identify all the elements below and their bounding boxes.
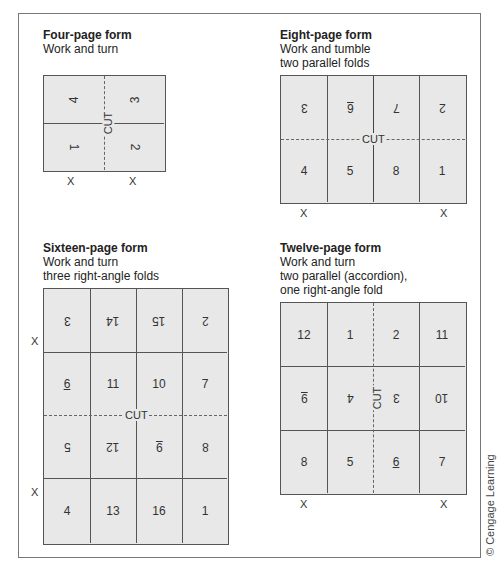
fold-line	[327, 303, 328, 493]
page-cell: 5	[327, 139, 373, 202]
cut-label: CUT	[361, 133, 386, 145]
page-cell: 10	[419, 366, 465, 430]
page-cell: 7	[182, 352, 228, 415]
page-cell: 11	[90, 352, 136, 415]
page-cell: 12	[90, 415, 136, 478]
page-number: 1	[68, 143, 82, 150]
fold-line	[90, 289, 91, 543]
page-cell: 2	[182, 289, 228, 352]
page-cell: 14	[90, 289, 136, 352]
page-number: 5	[64, 440, 71, 454]
page-number: 4	[301, 164, 308, 178]
page-cell: 5	[327, 430, 373, 493]
four-page-form-diagram: 4 3 1 2 CUT	[43, 75, 166, 172]
page-number: 9	[156, 440, 163, 454]
page-cell: 6	[373, 430, 419, 493]
sixteen-page-form-title: Sixteen-page form	[43, 241, 159, 255]
page-number: 2	[129, 143, 143, 150]
page-cell: 1	[419, 139, 465, 202]
page-number: 14	[106, 314, 119, 328]
page-number: 3	[393, 391, 400, 405]
gripper-mark: X	[440, 207, 447, 219]
page-number: 7	[393, 101, 400, 115]
sixteen-page-form-caption: Sixteen-page form Work and turn three ri…	[43, 241, 159, 283]
twelve-page-form-diagram: 12 1 2 11 9 4 3 10 8 5 6 7 CUT	[280, 302, 467, 495]
page-number: 5	[347, 455, 354, 469]
page-cell: 4	[44, 478, 90, 543]
page-cell: 7	[419, 430, 465, 493]
page-cell: 1	[182, 478, 228, 543]
page-number: 2	[393, 328, 400, 342]
gripper-mark: X	[31, 486, 38, 498]
twelve-page-form-subtitle: Work and turn	[280, 255, 407, 269]
sixteen-page-form-subtitle: three right-angle folds	[43, 269, 159, 283]
gripper-mark: X	[440, 498, 447, 510]
twelve-page-form-subtitle: two parallel (accordion),	[280, 269, 407, 283]
twelve-page-form-title: Twelve-page form	[280, 241, 407, 255]
page-cell: 9	[136, 415, 182, 478]
page-number: 4	[68, 96, 82, 103]
page-number: 4	[347, 391, 354, 405]
gripper-mark: X	[31, 335, 38, 347]
gripper-mark: X	[300, 498, 307, 510]
page-cell: 2	[373, 303, 419, 366]
sixteen-page-form-subtitle: Work and turn	[43, 255, 159, 269]
eight-page-form-caption: Eight-page form Work and tumble two para…	[280, 28, 372, 70]
page-number: 4	[64, 504, 71, 518]
page-cell: 11	[419, 303, 465, 366]
copyright-notice: © Cengage Learning	[484, 454, 496, 556]
page-number: 16	[152, 504, 165, 518]
page-number: 10	[152, 377, 165, 391]
page-cell: 8	[281, 430, 327, 493]
fold-line	[44, 352, 227, 353]
page-cell: 3	[281, 76, 327, 139]
page-cell: 13	[90, 478, 136, 543]
page-cell: 3	[44, 289, 90, 352]
page-number: 7	[202, 377, 209, 391]
gripper-mark: X	[67, 175, 74, 187]
page-number: 1	[439, 164, 446, 178]
page-number: 7	[439, 455, 446, 469]
page-number: 1	[347, 328, 354, 342]
cut-label: CUT	[124, 409, 149, 421]
page-cell: 8	[373, 139, 419, 202]
page-cell: 7	[373, 76, 419, 139]
page-number: 6	[64, 377, 71, 391]
page-number: 3	[129, 96, 143, 103]
page-number: 13	[106, 504, 119, 518]
eight-page-form-subtitle: Work and tumble	[280, 42, 372, 56]
page-number: 15	[152, 314, 165, 328]
sixteen-page-form-diagram: 3 14 15 2 6 11 10 7 5 12 9 8 4 13 16 1 C…	[43, 288, 229, 545]
page-cell: 5	[44, 415, 90, 478]
page-number: 10	[435, 391, 448, 405]
four-page-form-caption: Four-page form Work and turn	[43, 28, 132, 56]
page-number: 5	[347, 164, 354, 178]
fold-line	[44, 478, 227, 479]
page-number: 3	[301, 101, 308, 115]
fold-line	[182, 289, 183, 543]
cut-label: CUT	[102, 111, 114, 136]
eight-page-form-subtitle: two parallel folds	[280, 56, 372, 70]
page-cell: 15	[136, 289, 182, 352]
page-number: 1	[202, 504, 209, 518]
page-cell: 9	[281, 366, 327, 430]
four-page-form-title: Four-page form	[43, 28, 132, 42]
page-cell: 8	[182, 415, 228, 478]
page-number: 11	[436, 328, 448, 342]
page-cell: 10	[136, 352, 182, 415]
fold-line	[419, 303, 420, 493]
page-cell: 4	[281, 139, 327, 202]
page-number: 3	[64, 314, 71, 328]
page-cell: 6	[44, 352, 90, 415]
gripper-mark: X	[300, 207, 307, 219]
page-cell: 4	[327, 366, 373, 430]
page-cell: 16	[136, 478, 182, 543]
twelve-page-form-subtitle: one right-angle fold	[280, 283, 407, 297]
page-number: 12	[297, 328, 310, 342]
page-cell: 6	[327, 76, 373, 139]
page-number: 8	[393, 164, 400, 178]
four-page-form-subtitle: Work and turn	[43, 42, 132, 56]
eight-page-form-diagram: 3 6 7 2 4 5 8 1 CUT	[280, 75, 467, 204]
page-cell: 2	[419, 76, 465, 139]
page-cell: 1	[327, 303, 373, 366]
